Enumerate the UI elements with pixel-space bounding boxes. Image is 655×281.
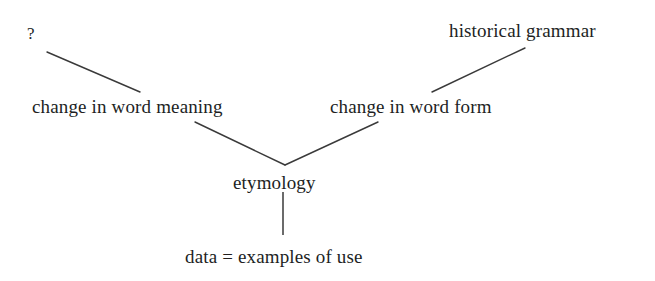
edge-word-form-to-etymology xyxy=(285,122,378,165)
edge-unknown-to-word-meaning xyxy=(47,52,140,92)
node-change-in-word-form-label: change in word form xyxy=(330,97,492,116)
node-unknown-label: ? xyxy=(27,25,35,42)
node-etymology-label: etymology xyxy=(233,173,316,192)
diagram-canvas: ? historical grammar change in word mean… xyxy=(0,0,655,281)
edge-word-meaning-to-etymology xyxy=(195,122,285,165)
edge-word-form-to-historical xyxy=(432,48,525,92)
node-historical-grammar-label: historical grammar xyxy=(449,21,596,40)
node-change-in-word-meaning-label: change in word meaning xyxy=(32,97,223,116)
diagram-edges-layer xyxy=(0,0,655,281)
node-data-examples-of-use-label: data = examples of use xyxy=(185,247,363,266)
